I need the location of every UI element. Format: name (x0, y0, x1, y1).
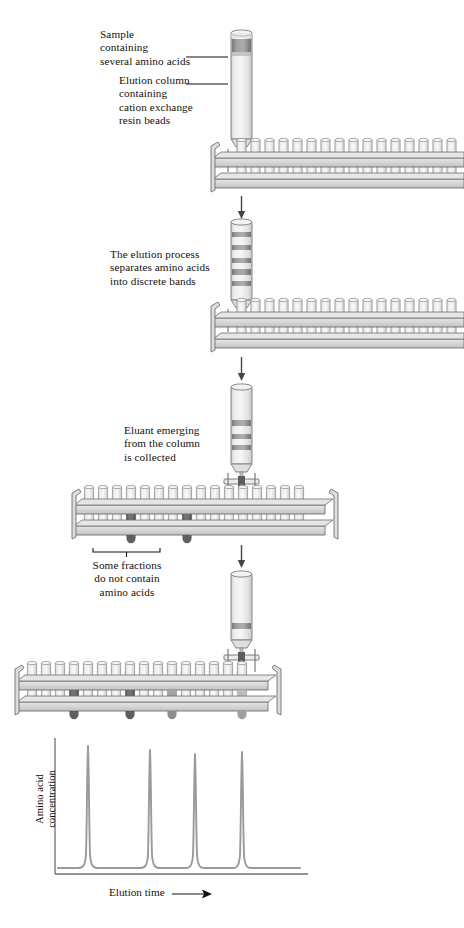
empty-fractions-label: Some fractions do not contain amino acid… (74, 559, 180, 599)
test-tube-rack-1 (211, 138, 464, 192)
arrow-stage-3-to-4 (238, 545, 245, 568)
elution-process-label: The elution process separates amino acid… (110, 248, 238, 288)
arrow-stage-1-to-2 (238, 196, 245, 219)
stage-2-group (211, 219, 464, 352)
stage-3-group (72, 384, 338, 557)
arrow-stage-2-to-3 (238, 357, 245, 381)
test-tube-rack-2 (211, 298, 464, 352)
empty-fractions-bracket (93, 548, 160, 557)
stage-1-group (186, 30, 464, 192)
elution-time-arrow-icon (172, 890, 212, 899)
chromatogram-curve (58, 746, 300, 868)
chart-x-axis-label: Elution time (109, 886, 165, 898)
sample-label: Sample containing several amino acids (100, 28, 194, 68)
figure-canvas: Sample containing several amino acids El… (0, 0, 464, 928)
chart-y-axis-label: Amino acid concentration (34, 732, 59, 866)
test-tube-rack-4 (15, 661, 281, 719)
eluant-label: Eluant emerging from the column is colle… (124, 424, 236, 464)
filled-fraction-bottoms-rack-4 (69, 711, 246, 719)
column-label: Elution column containing cation exchang… (119, 74, 219, 128)
filled-fraction-bottoms-rack-3 (126, 535, 191, 543)
elution-column-stage-4 (231, 571, 252, 660)
test-tube-rack-3 (72, 485, 338, 543)
chromatogram-chart (55, 738, 308, 898)
